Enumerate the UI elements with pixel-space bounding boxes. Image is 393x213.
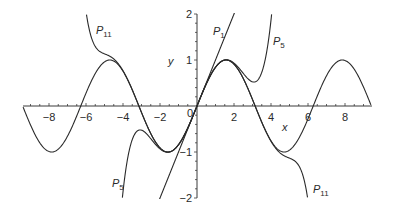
taylor-polynomial-chart: −8−6−4−22468 −2−112 0 x y P11 P1 P5 P5 P… [0, 0, 393, 213]
x-tick-label: 2 [231, 111, 237, 123]
p11-bottom-label: P11 [313, 183, 329, 198]
x-axis-label: x [281, 121, 288, 133]
x-tick-label: −8 [43, 111, 56, 123]
x-tick-labels: −8−6−4−22468 [43, 111, 348, 123]
x-tick-label: −2 [154, 111, 167, 123]
x-tick-label: −4 [117, 111, 130, 123]
p5-bottom-label: P5 [112, 177, 124, 192]
x-tick-label: 8 [342, 111, 348, 123]
y-tick-label: −1 [179, 146, 192, 158]
y-axis-label: y [167, 55, 175, 67]
y-tick-label: −2 [179, 192, 192, 204]
p5-top-label: P5 [273, 35, 285, 50]
y-tick-label: 1 [186, 54, 192, 66]
x-tick-label: 4 [268, 111, 274, 123]
p1-label: P1 [213, 25, 225, 40]
p11-top-label: P11 [96, 24, 112, 39]
y-tick-label: 2 [186, 8, 192, 20]
x-tick-label: −6 [80, 111, 93, 123]
